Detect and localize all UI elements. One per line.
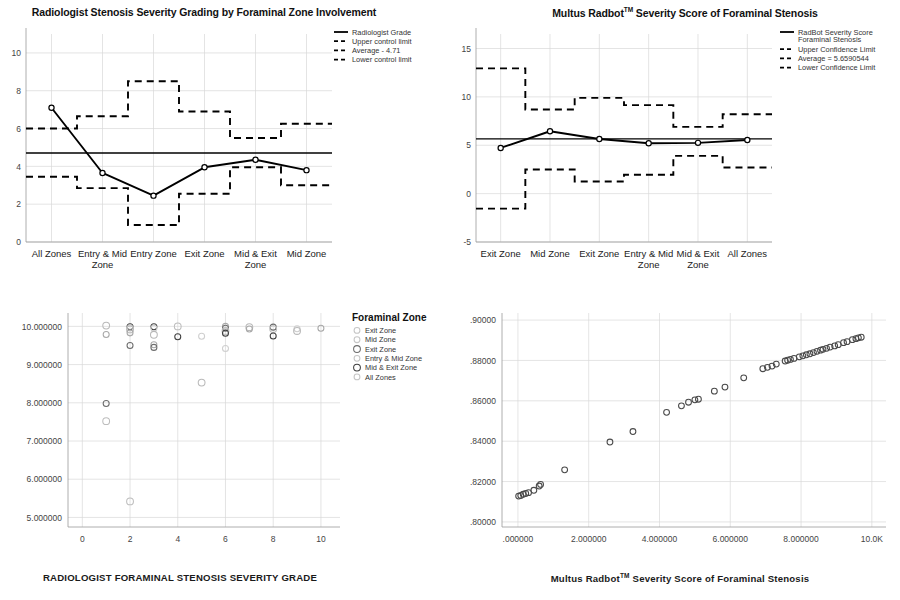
data-point-marker [745,137,750,142]
legend-title: Foraminal Zone [352,312,427,323]
panel-radiologist-scatter: 5.0000006.0000007.0000008.0000009.000000… [0,295,460,600]
x-tick-label: 8 [271,534,276,544]
x-tick-label: 4.000000 [642,534,678,544]
scatter-point [199,333,205,339]
trademark-symbol: TM [624,6,633,13]
axis-title-radiologist-grade: RADIOLOGIST FORAMINAL STENOSIS SEVERITY … [0,572,360,583]
svg-text:Exit Zone: Exit Zone [481,248,521,259]
y-tick-label: 9.000000 [27,360,63,370]
series-line [52,108,307,196]
upper-control-limit-line [476,68,772,127]
svg-text:Zone: Zone [687,259,709,270]
chart-canvas-radbot: -5051015Exit ZoneMid ZoneExit ZoneEntry … [450,18,900,288]
data-point-marker [695,140,700,145]
scatter-point [562,467,568,473]
y-tick-label: 8 [16,86,21,96]
x-category-label: Exit Zone [184,248,224,259]
y-tick-label: 0 [466,189,471,199]
chart-canvas-radiologist: 0246810All ZonesEntry & MidZoneEntry Zon… [0,18,450,288]
scatter-point [679,403,685,409]
legend-label: Mid & Exit Zone [365,363,417,372]
svg-text:Zone: Zone [245,259,267,270]
axis-title-radbot-score: Multus RadbotTM Severity Score of Forami… [470,572,890,584]
trademark-symbol-axis: TM [620,572,630,579]
x-category-label: Mid Zone [287,248,327,259]
x-tick-label: 2 [128,534,133,544]
y-tick-label: .84000 [470,436,496,446]
svg-text:Mid & Exit: Mid & Exit [677,248,720,259]
x-category-label: Exit Zone [579,248,619,259]
panel-radiologist-control-chart: Radiologist Stenosis Severity Grading by… [0,0,450,290]
x-tick-label: 4 [175,534,180,544]
legend-label: All Zones [365,373,396,382]
x-category-label: Entry & MidZone [624,248,673,270]
chart-canvas-radbot-scatter: .80000.82000.84000.86000.88000.90000.000… [450,295,900,575]
scatter-point [103,418,110,425]
scatter-point [607,439,613,445]
x-tick-label: 6 [223,534,228,544]
scatter-point [103,401,109,407]
legend-marker [354,355,360,361]
data-point-marker [202,165,207,170]
chart-canvas-radiologist-scatter: 5.0000006.0000007.0000008.0000009.000000… [0,295,460,575]
scatter-point [103,322,110,329]
y-tick-label: 0 [16,237,21,247]
upper-control-limit-line [26,81,332,138]
data-point-marker [597,136,602,141]
y-tick-label: 10 [462,92,472,102]
x-category-label: Mid Zone [530,248,570,259]
panel-radbot-control-chart: Multus RadbotTM Severity Score of Forami… [450,0,900,290]
scatter-point [150,331,157,338]
x-category-label: Exit Zone [481,248,521,259]
axis-title-radbot-prefix: Multus Radbot [551,573,620,584]
scatter-point [711,388,717,394]
scatter-point [664,409,670,415]
y-tick-label: .88000 [470,356,496,366]
legend-item: Radiologist Grade [334,28,411,37]
y-tick-label: 10.000000 [22,322,62,332]
data-point-marker [304,168,309,173]
scatter-point [722,384,728,390]
svg-text:Entry & Mid: Entry & Mid [78,248,127,259]
svg-text:Zone: Zone [92,259,114,270]
x-tick-label: 10 [316,534,326,544]
y-tick-label: .82000 [470,477,496,487]
scatter-point [814,348,820,354]
data-point-marker [100,170,105,175]
scatter-point [198,379,205,386]
y-tick-label: 7.000000 [27,436,63,446]
legend-label: Average = 5.6590544 [798,54,869,63]
y-tick-label: .86000 [470,396,496,406]
legend-marker [354,337,360,343]
data-point-marker [151,193,156,198]
legend-item: Lower control limit [334,55,412,64]
y-tick-label: -5 [463,237,471,247]
x-category-label: All Zones [728,248,768,259]
svg-text:Mid Zone: Mid Zone [287,248,327,259]
scatter-point [741,375,747,381]
scatter-point [538,482,544,488]
svg-text:All Zones: All Zones [728,248,768,259]
scatter-point [696,396,702,402]
svg-text:Entry & Mid: Entry & Mid [624,248,673,259]
data-point-marker [498,145,503,150]
legend-label: Mid Zone [365,335,396,344]
y-tick-label: 5 [466,140,471,150]
scatter-point [807,351,813,357]
y-tick-label: 6 [16,124,21,134]
svg-text:Mid Zone: Mid Zone [530,248,570,259]
x-category-label: Entry & MidZone [78,248,127,270]
legend-label: Lower Confidence Limit [798,63,875,72]
scatter-point [103,331,109,337]
y-tick-label: 6.000000 [27,474,63,484]
legend-item: Upper control limit [334,37,412,46]
x-tick-label: 0 [80,534,85,544]
scatter-point [630,429,636,435]
y-tick-label: 2 [16,199,21,209]
y-tick-label: .90000 [470,315,496,325]
data-point-marker [547,129,552,134]
panel-radbot-scatter: .80000.82000.84000.86000.88000.90000.000… [450,295,900,600]
legend-label: Average - 4.71 [352,46,400,55]
legend-foraminal-zone: Foraminal ZoneExit ZoneMid ZoneExit Zone… [352,312,427,382]
scatter-point [536,483,542,489]
